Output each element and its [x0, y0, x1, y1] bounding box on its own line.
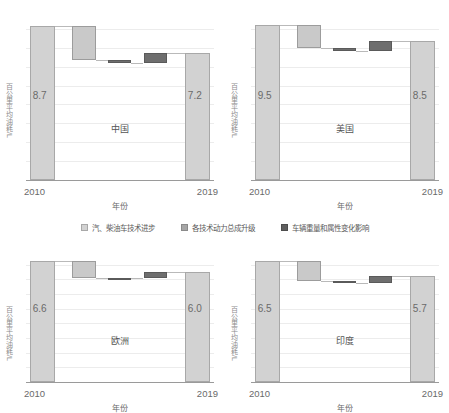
connector-line	[167, 53, 185, 54]
connector-line	[356, 51, 368, 52]
bars-china: 8.77.2	[26, 10, 214, 180]
bar-total-end	[410, 41, 435, 180]
value-label-start: 6.6	[33, 303, 47, 314]
y-axis-label: 百公里平均油耗/L	[227, 258, 241, 408]
connector-line	[131, 278, 143, 279]
bar-weight-attributes	[144, 272, 168, 278]
legend-swatch-mid-icon	[181, 224, 188, 231]
x-axis-label: 年份	[251, 200, 439, 211]
country-label: 中国	[26, 122, 214, 135]
plot-area-usa: 9.58.5 美国	[251, 10, 439, 181]
value-label-end: 5.7	[413, 303, 427, 314]
chart-panel-europe: 百公里平均油耗/L 6.66.0 欧洲 2010 2019 年份	[0, 240, 224, 402]
x-tick-start: 2010	[249, 388, 270, 399]
value-label-start: 9.5	[258, 90, 272, 101]
bars-europe: 6.66.0	[26, 250, 214, 382]
connector-line	[392, 276, 410, 277]
connector-line	[131, 63, 143, 64]
legend-item-weight-attributes[interactable]: 车辆重量和属性变化影响	[281, 222, 369, 233]
bar-total-start	[30, 261, 55, 382]
x-tick-end: 2019	[197, 388, 218, 399]
value-label-end: 7.2	[188, 90, 202, 101]
value-label-end: 6.0	[188, 303, 202, 314]
x-axis-label: 年份	[26, 402, 214, 413]
country-label: 美国	[251, 122, 439, 135]
legend-swatch-dark-icon	[281, 224, 288, 231]
bar-total-start	[255, 261, 280, 382]
x-tick-end: 2019	[422, 388, 443, 399]
connector-line	[55, 261, 72, 262]
bar-powertrain-upgrade	[333, 281, 357, 283]
connector-line	[96, 60, 108, 61]
bar-weight-attributes	[144, 53, 168, 64]
bars-india: 6.55.7	[251, 250, 439, 382]
x-tick-start: 2010	[24, 186, 45, 197]
connector-line	[280, 261, 297, 262]
x-tick-end: 2019	[197, 186, 218, 197]
connector-line	[321, 48, 333, 49]
x-axis-label: 年份	[26, 200, 214, 211]
bar-tech-progress	[72, 261, 96, 278]
y-axis-label: 百公里平均油耗/L	[2, 258, 16, 408]
chart-panel-china: 百公里平均油耗/L 8.77.2 中国 2010 2019 年份	[0, 0, 224, 200]
bar-tech-progress	[297, 261, 321, 281]
plot-area-india: 6.55.7 印度	[251, 250, 439, 383]
bar-tech-progress	[72, 26, 96, 60]
bar-powertrain-upgrade	[108, 60, 132, 64]
bar-tech-progress	[297, 25, 321, 48]
chart-panel-usa: 百公里平均油耗/L 9.58.5 美国 2010 2019 年份	[225, 0, 449, 200]
bar-powertrain-upgrade	[333, 48, 357, 51]
connector-line	[321, 281, 333, 282]
x-tick-end: 2019	[422, 186, 443, 197]
x-tick-start: 2010	[249, 186, 270, 197]
bar-total-end	[185, 272, 210, 382]
chart-panel-india: 百公里平均油耗/L 6.55.7 印度 2010 2019 年份	[225, 240, 449, 402]
bar-weight-attributes	[369, 41, 393, 51]
legend-label: 各技术动力总成升级	[192, 222, 255, 233]
country-label: 欧洲	[26, 334, 214, 347]
legend-label: 汽、柴油车技术进步	[92, 222, 155, 233]
y-axis-label: 百公里平均油耗/L	[227, 35, 241, 185]
x-tick-start: 2010	[24, 388, 45, 399]
bars-usa: 9.58.5	[251, 10, 439, 180]
connector-line	[280, 25, 297, 26]
bar-total-end	[185, 53, 210, 181]
plot-area-china: 8.77.2 中国	[26, 10, 214, 181]
legend-item-powertrain-upgrade[interactable]: 各技术动力总成升级	[181, 222, 255, 233]
connector-line	[167, 272, 185, 273]
y-axis-label: 百公里平均油耗/L	[2, 35, 16, 185]
bar-weight-attributes	[369, 276, 393, 283]
bar-powertrain-upgrade	[108, 278, 132, 280]
bar-total-end	[410, 276, 435, 382]
connector-line	[392, 41, 410, 42]
connector-line	[96, 278, 108, 279]
legend-swatch-light-icon	[81, 224, 88, 231]
bar-total-start	[30, 26, 55, 180]
bar-total-start	[255, 25, 280, 180]
value-label-end: 8.5	[413, 90, 427, 101]
country-label: 印度	[251, 334, 439, 347]
x-axis-label: 年份	[251, 402, 439, 413]
value-label-start: 6.5	[258, 303, 272, 314]
legend-item-tech-progress[interactable]: 汽、柴油车技术进步	[81, 222, 155, 233]
legend-label: 车辆重量和属性变化影响	[292, 222, 369, 233]
legend: 汽、柴油车技术进步 各技术动力总成升级 车辆重量和属性变化影响	[0, 218, 449, 236]
plot-area-europe: 6.66.0 欧洲	[26, 250, 214, 383]
connector-line	[55, 26, 72, 27]
connector-line	[356, 283, 368, 284]
value-label-start: 8.7	[33, 90, 47, 101]
